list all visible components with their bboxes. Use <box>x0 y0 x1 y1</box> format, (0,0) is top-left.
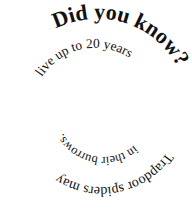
segment-4: in their burrows. <box>54 132 142 168</box>
segment-1: Did you know? <box>48 0 192 70</box>
spiral-line-burrows: in their burrows. <box>54 132 142 168</box>
spiral-text-graphic: Did you know? Trapdoor spiders may live … <box>0 0 192 217</box>
spiral-line-live-up-to: live up to 20 years <box>32 36 136 79</box>
headline-did-you-know: Did you know? <box>48 0 192 70</box>
segment-3: live up to 20 years <box>32 36 136 79</box>
